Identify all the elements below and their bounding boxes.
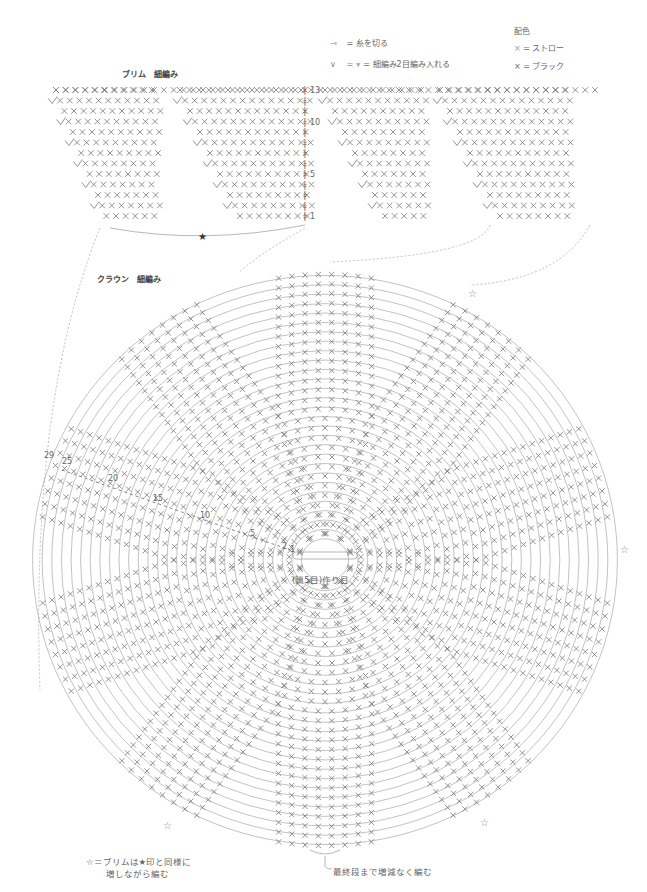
black-stitch-icon: × [514, 62, 521, 71]
svg-text:1: 1 [310, 212, 315, 221]
cut-yarn-icon: ⊸ [330, 39, 344, 48]
legend-color-straw: × = ストロー [514, 42, 565, 53]
svg-text:ǂ: ǂ [303, 181, 307, 190]
legend-cut-yarn: ⊸ = 糸を切る [330, 37, 388, 48]
svg-text:ǂ: ǂ [303, 149, 307, 158]
svg-text:ǂ: ǂ [303, 128, 307, 137]
svg-text:★: ★ [198, 231, 207, 242]
svg-text:ǂ: ǂ [303, 212, 307, 221]
legend-color-black: × = ブラック [514, 60, 565, 71]
svg-text:☆: ☆ [468, 288, 477, 299]
svg-text:ǂ: ǂ [303, 118, 307, 127]
crown-chart: 2925201510521☆☆☆☆ [33, 272, 629, 869]
svg-text:ǂ: ǂ [303, 170, 307, 179]
svg-text:☆: ☆ [620, 544, 629, 555]
legend-increase: ∨ = ⩔ = 細編み2目編み入れる [330, 58, 450, 70]
svg-text:1: 1 [290, 545, 295, 554]
bottom-note: 最終段まで増減なく編む [333, 865, 432, 877]
svg-text:10: 10 [200, 511, 210, 520]
svg-text:☆: ☆ [480, 817, 489, 828]
svg-text:15: 15 [153, 494, 163, 503]
brim-title: ブリム 細編み [122, 68, 178, 79]
svg-text:ǂ: ǂ [303, 107, 307, 116]
svg-text:ǂ: ǂ [303, 160, 307, 169]
crochet-chart: ǂǂǂǂǂǂǂǂǂǂǂǂǂ131051★2925201510521☆☆☆☆ [0, 0, 647, 892]
center-chain-label: (鎖5目)作り目 [292, 573, 349, 585]
svg-text:ǂ: ǂ [303, 191, 307, 200]
svg-text:20: 20 [108, 474, 118, 483]
increase-v-icon: ∨ [330, 60, 344, 69]
svg-text:☆: ☆ [163, 820, 172, 831]
svg-text:5: 5 [310, 170, 315, 179]
increase-symbol-icon: = ⩔ [347, 60, 361, 69]
star-note: ☆＝ブリムは★印と同様に 増しながら編む [86, 855, 191, 879]
svg-text:10: 10 [310, 118, 320, 127]
legend-color-title: 配色 [514, 25, 530, 36]
svg-text:ǂ: ǂ [303, 202, 307, 211]
svg-text:2: 2 [282, 542, 287, 551]
svg-text:ǂ: ǂ [303, 139, 307, 148]
svg-text:ǂ: ǂ [303, 97, 307, 106]
crown-title: クラウン 細編み [97, 273, 161, 284]
straw-stitch-icon: × [514, 44, 521, 53]
svg-text:25: 25 [62, 457, 72, 466]
svg-text:29: 29 [44, 451, 54, 460]
